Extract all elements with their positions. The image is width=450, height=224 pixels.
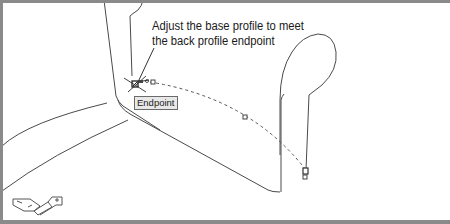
viewport-frame-top	[0, 0, 450, 3]
floor-curve-upper	[2, 103, 107, 146]
wall-profile-inner-edge	[130, 0, 143, 76]
grip-icon-end-lower[interactable]	[303, 175, 307, 179]
grip-icon-mid[interactable]	[243, 115, 247, 119]
callout-leader-line	[138, 48, 154, 82]
instruction-callout: Adjust the base profile to meet the back…	[152, 19, 304, 49]
callout-line-2: the back profile endpoint	[152, 34, 304, 49]
base-profile-edge	[118, 100, 280, 192]
grip-icon-start[interactable]	[151, 80, 155, 84]
osnap-endpoint-tooltip: Endpoint	[134, 96, 178, 110]
back-profile-edge	[281, 94, 284, 192]
callout-line-1: Adjust the base profile to meet	[152, 19, 304, 34]
ucs-axis-icon	[13, 197, 62, 215]
viewport-frame-bottom	[0, 220, 450, 224]
grip-icon-end[interactable]	[303, 168, 308, 174]
viewport-frame-left	[0, 0, 3, 224]
drawing-viewport[interactable]: Adjust the base profile to meet the back…	[0, 0, 450, 224]
floor-curve-lower	[2, 120, 128, 191]
